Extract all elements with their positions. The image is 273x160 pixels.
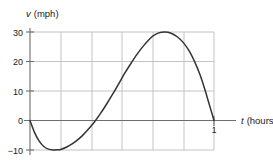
y-axis-label-unit: (mph) (34, 8, 59, 19)
x-axis-label-unit: (hours) (247, 115, 273, 126)
ytick-label-0: 0 (18, 116, 23, 126)
ytick-label-10: 10 (13, 87, 23, 97)
ytick-label-neg10: −10 (8, 146, 23, 156)
x-axis-label: t(hours) (241, 115, 273, 126)
ytick-label-30: 30 (13, 28, 23, 38)
x-axis-label-var: t (241, 115, 244, 126)
chart-background (0, 0, 273, 160)
ytick-label-20: 20 (13, 57, 23, 67)
velocity-time-graph: 30 20 10 0 −10 1 v(mph) t(hours) (0, 0, 273, 160)
xtick-label-1: 1 (212, 125, 217, 135)
